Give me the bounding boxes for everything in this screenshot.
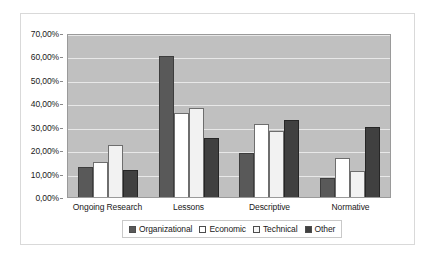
y-tick-label: 30,00% — [31, 123, 59, 133]
x-tick-label: Descriptive — [229, 202, 310, 212]
bar-group — [310, 35, 391, 197]
y-tick-mark — [60, 104, 63, 105]
bar[interactable] — [320, 178, 335, 197]
bar[interactable] — [93, 162, 108, 197]
y-tick-label: 40,00% — [31, 99, 59, 109]
bar[interactable] — [350, 171, 365, 197]
bar[interactable] — [239, 153, 254, 198]
y-tick-label: 0,00% — [35, 193, 59, 203]
plot-area — [67, 34, 391, 198]
x-axis: Ongoing ResearchLessonsDescriptiveNormat… — [67, 202, 391, 212]
bar[interactable] — [78, 167, 93, 197]
legend-swatch-icon — [305, 226, 312, 233]
legend-swatch-icon — [253, 226, 260, 233]
legend-label: Technical — [263, 224, 298, 234]
y-tick-mark — [60, 34, 63, 35]
bar-group — [149, 35, 230, 197]
y-tick-mark — [60, 151, 63, 152]
y-tick-mark — [60, 57, 63, 58]
bar[interactable] — [269, 131, 284, 197]
bar[interactable] — [189, 108, 204, 197]
legend-swatch-icon — [199, 226, 206, 233]
legend-label: Other — [315, 224, 336, 234]
bar[interactable] — [365, 127, 380, 197]
y-tick-mark — [60, 128, 63, 129]
chart-legend: OrganizationalEconomicTechnicalOther — [122, 220, 342, 238]
bar[interactable] — [204, 138, 219, 197]
legend-item[interactable]: Economic — [199, 224, 246, 234]
legend-label: Organizational — [139, 224, 192, 234]
legend-item[interactable]: Other — [305, 224, 336, 234]
chart-card: 0,00%10,00%20,00%30,00%40,00%50,00%60,00… — [20, 13, 415, 245]
legend-item[interactable]: Technical — [253, 224, 298, 234]
y-axis: 0,00%10,00%20,00%30,00%40,00%50,00%60,00… — [21, 34, 63, 198]
legend-label: Economic — [209, 224, 246, 234]
bar[interactable] — [284, 120, 299, 197]
bar-group — [229, 35, 310, 197]
bar[interactable] — [108, 145, 123, 197]
y-tick-mark — [60, 198, 63, 199]
bar[interactable] — [123, 170, 138, 197]
y-tick-label: 20,00% — [31, 146, 59, 156]
x-tick-label: Lessons — [148, 202, 229, 212]
y-tick-mark — [60, 175, 63, 176]
x-tick-label: Normative — [310, 202, 391, 212]
bar[interactable] — [174, 113, 189, 197]
bar-group — [68, 35, 149, 197]
y-tick-mark — [60, 81, 63, 82]
legend-swatch-icon — [129, 226, 136, 233]
y-tick-label: 70,00% — [31, 29, 59, 39]
y-tick-label: 50,00% — [31, 76, 59, 86]
bar[interactable] — [254, 124, 269, 197]
y-tick-label: 60,00% — [31, 52, 59, 62]
bars-layer — [68, 35, 390, 197]
x-tick-label: Ongoing Research — [67, 202, 148, 212]
bar[interactable] — [159, 56, 174, 197]
legend-item[interactable]: Organizational — [129, 224, 192, 234]
bar[interactable] — [335, 158, 350, 197]
y-tick-label: 10,00% — [31, 170, 59, 180]
